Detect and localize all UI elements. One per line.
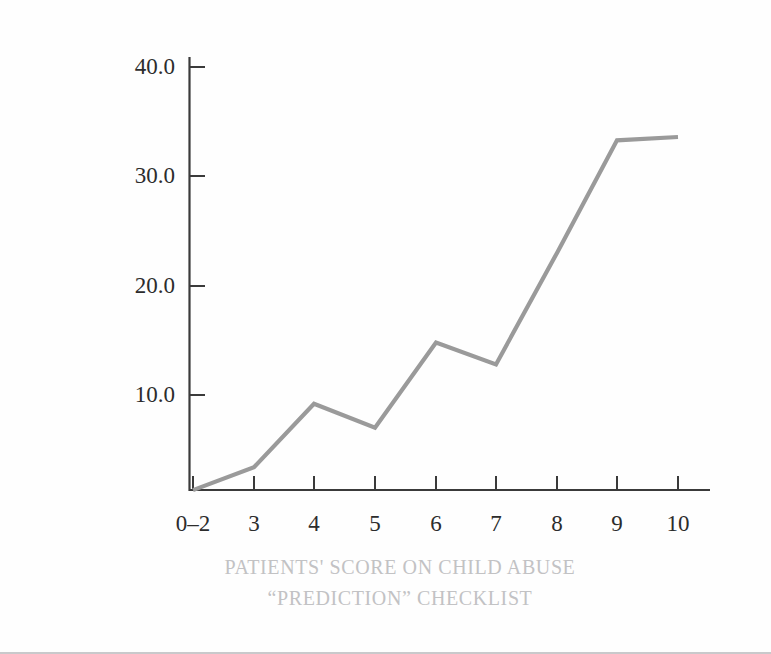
x-axis-tick-label: 8 <box>551 512 563 535</box>
x-axis-tick-label: 9 <box>611 512 623 535</box>
x-axis-tick-marks <box>193 476 678 490</box>
x-axis-title-line-1: PATIENTS' SCORE ON CHILD ABUSE <box>150 552 650 583</box>
chart-figure: CHILD ABUSE RATE PER 100 CHILDREN AGE 3–… <box>0 0 771 654</box>
x-axis-tick-label: 3 <box>248 512 260 535</box>
x-axis-tick-label: 4 <box>308 512 320 535</box>
x-axis-tick-label: 5 <box>369 512 381 535</box>
x-axis-title: PATIENTS' SCORE ON CHILD ABUSE “PREDICTI… <box>150 552 650 614</box>
x-axis-tick-labels: 0–2345678910 <box>0 500 771 540</box>
data-line-series-child-abuse-rate <box>193 137 678 490</box>
x-axis-tick-label: 10 <box>667 512 690 535</box>
y-axis-tick-marks <box>190 67 205 395</box>
x-axis-title-line-2: “PREDICTION” CHECKLIST <box>150 583 650 614</box>
axis-lines <box>189 57 710 491</box>
x-axis-tick-label: 6 <box>430 512 442 535</box>
x-axis-tick-label: 7 <box>490 512 502 535</box>
x-axis-tick-label: 0–2 <box>176 512 211 535</box>
